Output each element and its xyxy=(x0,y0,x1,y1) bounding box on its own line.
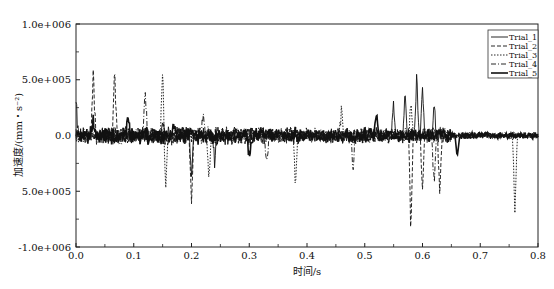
acceleration-chart: 1.0e+0065.0e+0050.05.0e+005-1.0e+006 0.0… xyxy=(0,0,554,289)
y-tick-label: -1.0e+006 xyxy=(18,242,71,253)
x-tick-label: 0.0 xyxy=(68,250,84,261)
legend-label: Trial_2 xyxy=(509,42,537,51)
legend: Trial_1Trial_2Trial_3Trial_4Trial_5 xyxy=(488,30,538,78)
x-tick-label: 0.3 xyxy=(241,250,257,261)
legend-label: Trial_3 xyxy=(509,51,537,60)
y-tick-label: 5.0e+005 xyxy=(22,74,71,85)
x-tick-label: 0.7 xyxy=(472,250,488,261)
x-tick-label: 0.8 xyxy=(530,250,546,261)
legend-label: Trial_5 xyxy=(509,69,537,78)
y-tick-label: 1.0e+006 xyxy=(22,19,71,30)
y-tick-label: 0.0 xyxy=(55,130,71,141)
y-axis-title: 加速度/(mm・s⁻²) xyxy=(12,93,24,178)
x-tick-label: 0.2 xyxy=(184,250,200,261)
x-axis-title: 时间/s xyxy=(293,265,322,277)
y-tick-label: 5.0e+005 xyxy=(22,186,71,197)
legend-label: Trial_4 xyxy=(509,60,537,69)
x-tick-label: 0.6 xyxy=(415,250,431,261)
x-tick-label: 0.4 xyxy=(299,250,315,261)
data-traces xyxy=(76,70,538,227)
y-axis-ticks: 1.0e+0065.0e+0050.05.0e+005-1.0e+006 xyxy=(18,19,80,253)
legend-label: Trial_1 xyxy=(509,33,537,42)
x-tick-label: 0.5 xyxy=(357,250,373,261)
x-tick-label: 0.1 xyxy=(126,250,142,261)
trace-trial-1 xyxy=(76,74,538,176)
x-axis-ticks: 0.00.10.20.30.40.50.60.70.8 xyxy=(68,243,546,261)
